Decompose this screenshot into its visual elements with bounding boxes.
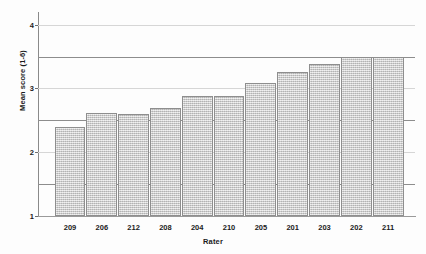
y-axis-tick-label: 4	[30, 20, 34, 29]
bar[interactable]	[86, 113, 117, 216]
x-axis-line	[38, 216, 416, 217]
bar-chart: Mean score (1-6) 1234 Rater 209206212208…	[0, 0, 426, 254]
y-axis-tick-label: 1	[30, 212, 34, 221]
bar[interactable]	[277, 72, 308, 216]
x-axis-tick-label: 212	[127, 223, 140, 232]
bar[interactable]	[341, 57, 372, 217]
x-axis-tick-label: 203	[318, 223, 331, 232]
x-axis-tick-label: 204	[191, 223, 204, 232]
x-axis-tick-label: 202	[350, 223, 363, 232]
bar[interactable]	[55, 127, 86, 216]
x-axis-title: Rater	[0, 237, 426, 246]
x-axis-tick-label: 201	[286, 223, 299, 232]
bars-container	[38, 15, 415, 216]
x-axis-tick-label: 210	[223, 223, 236, 232]
x-axis-tick-label: 209	[64, 223, 77, 232]
bar[interactable]	[150, 108, 181, 217]
bar[interactable]	[182, 96, 213, 216]
bar[interactable]	[245, 83, 276, 216]
y-axis-tick-label: 3	[30, 84, 34, 93]
y-axis-tick-mark	[35, 216, 38, 217]
bar[interactable]	[214, 96, 245, 216]
x-axis-tick-label: 205	[255, 223, 268, 232]
x-axis-tick-label: 206	[96, 223, 109, 232]
x-axis-tick-label: 208	[159, 223, 172, 232]
bar[interactable]	[373, 57, 404, 217]
x-axis-tick-label: 211	[382, 223, 394, 232]
bar[interactable]	[309, 64, 340, 216]
y-axis-title: Mean score (1-6)	[18, 21, 27, 141]
y-axis-tick-label: 2	[30, 148, 34, 157]
bar[interactable]	[118, 114, 149, 216]
